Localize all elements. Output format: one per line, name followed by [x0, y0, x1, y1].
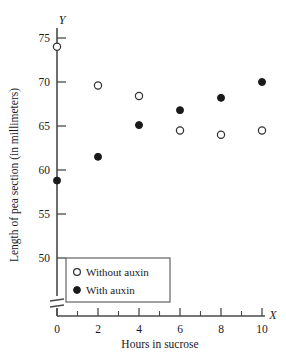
legend-label-without-auxin: Without auxin [86, 266, 149, 278]
series-without-auxin-points [53, 43, 265, 138]
data-point [136, 122, 143, 129]
y-tick-label-65: 65 [39, 120, 51, 132]
legend-label-with-auxin: With auxin [86, 284, 135, 296]
x-tick-label-2: 2 [95, 323, 101, 335]
data-point [217, 131, 224, 138]
x-axis-title: Hours in sucrose [121, 338, 198, 350]
legend-marker-with-auxin [74, 287, 81, 294]
data-point [177, 107, 184, 114]
y-axis-name: Y [59, 13, 67, 27]
x-tick-label-10: 10 [256, 323, 268, 335]
data-point [54, 177, 61, 184]
scatter-plot-figure: Length of pea section (in millimeters) Y… [0, 0, 286, 361]
y-tick-label-75: 75 [39, 32, 51, 44]
y-tick-label-55: 55 [39, 208, 51, 220]
legend-marker-without-auxin [74, 269, 81, 276]
y-axis-break-lower [50, 305, 64, 307]
data-point [135, 92, 142, 99]
x-tick-label-6: 6 [177, 323, 183, 335]
x-tick-label-8: 8 [218, 323, 224, 335]
x-tick-label-0: 0 [54, 323, 60, 335]
y-axis-title: Length of pea section (in millimeters) [8, 88, 21, 262]
y-tick-label-50: 50 [39, 252, 51, 264]
x-axis-ticks: 0246810 [54, 308, 268, 335]
x-tick-label-4: 4 [136, 323, 142, 335]
legend: Without auxin With auxin [66, 258, 170, 302]
data-point [259, 79, 266, 86]
data-point [218, 94, 225, 101]
data-point [95, 153, 102, 160]
y-axis-break-upper [50, 299, 64, 301]
data-point [258, 127, 265, 134]
data-point [94, 82, 101, 89]
y-tick-label-60: 60 [39, 164, 51, 176]
data-point [53, 43, 60, 50]
chart-canvas: Length of pea section (in millimeters) Y… [0, 0, 286, 361]
x-axis-name: X [268, 308, 277, 322]
y-axis-ticks: 505560657075 [39, 32, 67, 264]
data-point [176, 127, 183, 134]
series-with-auxin-points [54, 79, 266, 185]
y-tick-label-70: 70 [39, 76, 51, 88]
